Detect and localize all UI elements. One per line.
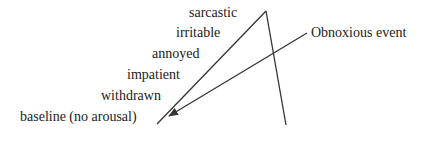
event-label: Obnoxious event	[311, 25, 406, 41]
level-label-withdrawn: withdrawn	[101, 88, 161, 104]
level-label-sarcastic: sarcastic	[189, 5, 237, 21]
level-label-annoyed: annoyed	[152, 46, 199, 62]
level-label-impatient: impatient	[127, 67, 180, 83]
arousal-diagram: sarcastic irritable annoyed impatient wi…	[0, 0, 436, 141]
level-label-baseline: baseline (no arousal)	[20, 109, 137, 125]
falling-line	[266, 11, 286, 125]
level-label-irritable: irritable	[176, 25, 220, 41]
